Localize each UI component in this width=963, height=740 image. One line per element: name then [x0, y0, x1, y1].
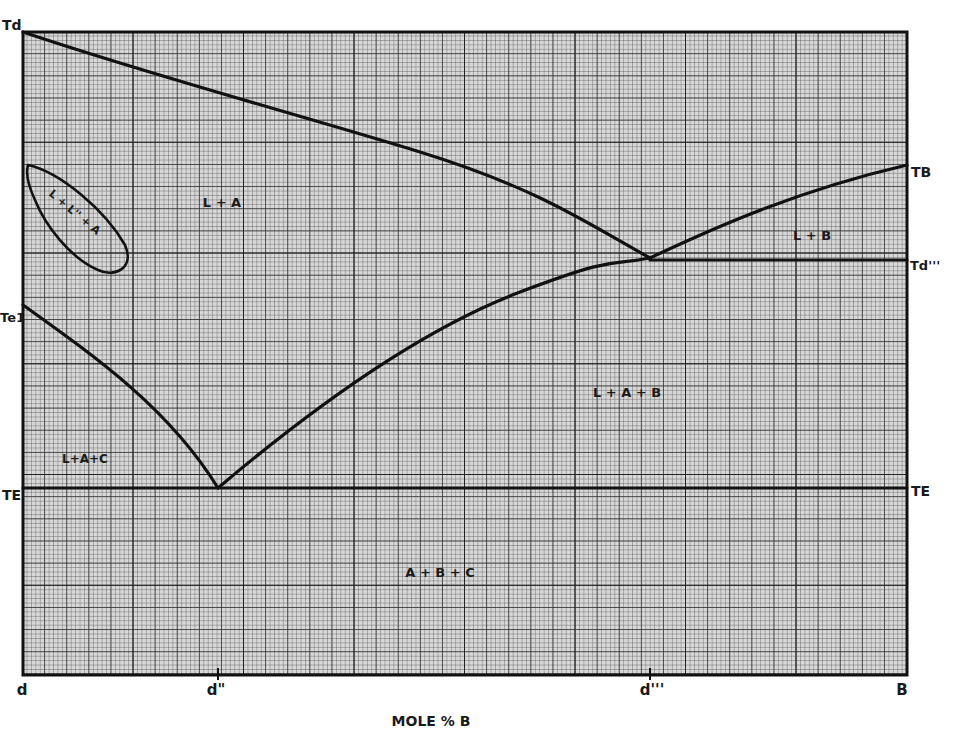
x-axis-title: MOLE % B — [392, 713, 471, 729]
tick-b: B — [896, 681, 907, 699]
tick-d: d — [17, 681, 28, 699]
left-temperature-labels: Td Te1 TE — [0, 17, 25, 503]
region-label-l-a-c: L+A+C — [62, 452, 108, 466]
label-td3: Td''' — [910, 258, 940, 273]
label-tb: TB — [911, 164, 931, 180]
region-label-l-b: L + B — [793, 228, 831, 243]
region-label-l-a-b: L + A + B — [593, 385, 661, 400]
region-label-l-a: L + A — [203, 195, 241, 210]
label-td: Td — [2, 17, 22, 33]
right-temperature-labels: TB Td''' TE — [910, 164, 940, 499]
label-te-right: TE — [911, 483, 930, 499]
label-te1: Te1 — [0, 310, 25, 325]
tick-d2: d" — [207, 681, 226, 699]
label-te-left: TE — [2, 487, 21, 503]
x-tick-labels: d d" d''' B — [17, 681, 908, 699]
phase-diagram: L + A L + B L + A + B L+A+C A + B + C L … — [0, 0, 963, 740]
region-label-a-b-c: A + B + C — [405, 565, 474, 580]
tick-d3: d''' — [640, 681, 665, 699]
